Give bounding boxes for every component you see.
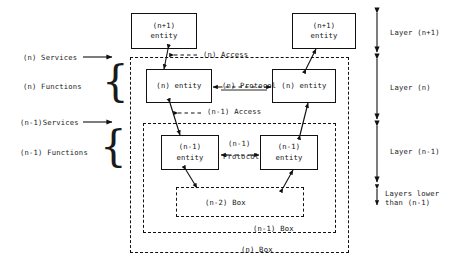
left-label-n-functions: (n) Functions [23,82,82,91]
entity-box-n-plus-1-left: (n+1) entity [131,13,197,49]
entity-box-n-minus-1-left: (n-1) entity [161,135,219,170]
entity-label-line1: (n-1) [179,142,202,152]
entity-label-line1: (n-1) [278,142,301,152]
connector-label-n-access: (n) Access [203,50,248,59]
connector-label-n-minus-1-protocol-line2: Protocol [223,152,259,161]
right-label-layer-n: Layer (n) [390,83,431,92]
entity-box-n-left: (n) entity [146,69,212,103]
connector-label-n-minus-1-protocol-line1: (n-1) [228,139,251,148]
entity-label-line1: (n) entity [281,81,326,91]
box-label-n: (n) Box [241,245,273,254]
box-label-n-minus-1: (n-1) Box [253,224,294,233]
connector-label-n-protocol: (n) Protocol [222,81,276,90]
entity-box-n-plus-1-right: (n+1) entity [292,13,356,49]
entity-label-line2: entity [275,153,302,163]
entity-label-line1: (n) entity [156,81,201,91]
entity-box-n-minus-1-right: (n-1) entity [260,135,318,170]
brace-n-minus-1-functions: { [100,126,127,168]
entity-label-line2: entity [150,31,177,41]
right-label-layers-lower-line1: Layers lower [385,189,439,198]
left-label-n-minus-1-services: (n-1)Services [20,118,79,127]
entity-label-line2: entity [176,153,203,163]
right-label-layers-lower-line2: than (n-1) [385,198,430,207]
right-label-layer-n-plus-1: Layer (n+1) [390,28,440,37]
entity-label-line1: (n+1) [153,21,176,31]
brace-n-functions: { [102,61,129,103]
entity-box-n-right: (n) entity [272,69,336,103]
left-label-n-services: (n) Services [23,53,77,62]
right-label-layer-n-minus-1: Layer (n-1) [390,147,440,156]
box-label-n-minus-2: (n-2) Box [205,198,246,207]
connector-label-n-minus-1-access: (n-1) Access [207,107,261,116]
entity-label-line2: entity [310,31,337,41]
diagram-canvas: (n+1) entity (n+1) entity (n) entity (n)… [0,0,460,278]
left-label-n-minus-1-functions: (n-1) Functions [20,148,88,157]
entity-label-line1: (n+1) [313,21,336,31]
